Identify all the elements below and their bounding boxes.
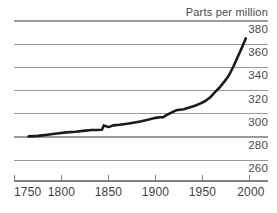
y-axis-unit-title: Parts per million <box>186 6 268 18</box>
x-tick-label-2000: 2000 <box>237 185 265 199</box>
y-tick-label-340: 340 <box>248 69 268 81</box>
x-tick-label-1900: 1900 <box>142 185 170 199</box>
y-tick-label-280: 280 <box>248 139 268 151</box>
x-tick-label-1950: 1950 <box>189 185 217 199</box>
y-tick-label-360: 360 <box>248 46 268 58</box>
co2-line-chart: Parts per million 380 360 340 320 300 28… <box>0 0 277 213</box>
y-tick-label-300: 300 <box>248 116 268 128</box>
x-tick-label-1850: 1850 <box>95 185 123 199</box>
y-tick-label-320: 320 <box>248 93 268 105</box>
chart-canvas: Parts per million 380 360 340 320 300 28… <box>0 0 277 213</box>
x-tick-label-1750: 1750 <box>14 185 42 199</box>
y-tick-label-380: 380 <box>248 23 268 35</box>
x-tick-label-1800: 1800 <box>48 185 76 199</box>
y-tick-label-260: 260 <box>248 162 268 174</box>
